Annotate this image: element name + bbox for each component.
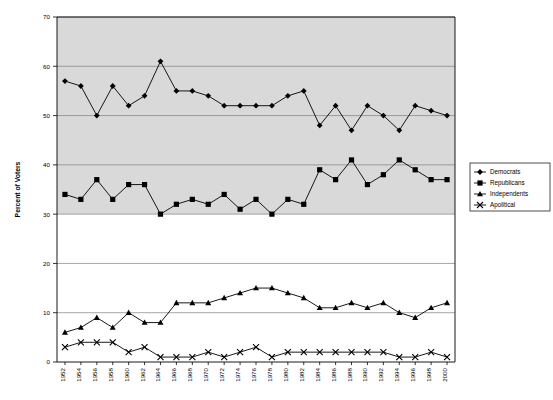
x-axis-tick-label: 1986 [330,367,337,381]
marker-square [174,202,179,207]
marker-square [349,157,354,162]
marker-square [477,180,482,185]
x-axis-tick-label: 1956 [91,367,98,381]
y-axis-tick-label: 10 [43,309,50,316]
x-axis-tick-label: 1984 [314,367,321,381]
marker-square [413,167,418,172]
y-axis-tick-label: 70 [43,13,50,20]
marker-square [317,167,322,172]
legend-label: Republicans [490,179,525,187]
marker-square [429,177,434,182]
marker-square [62,192,67,197]
marker-square [110,197,115,202]
chart-root: 010203040506070Percent of Voters19521954… [0,0,553,400]
marker-square [206,202,211,207]
x-axis-tick-label: 1988 [346,367,353,381]
marker-square [397,157,402,162]
x-axis-tick-label: 1998 [425,367,432,381]
x-axis-tick-label: 1980 [282,367,289,381]
legend-label: Independents [490,190,528,198]
marker-square [94,177,99,182]
marker-square [365,182,370,187]
line-chart: 010203040506070Percent of Voters19521954… [0,0,553,400]
y-axis-tick-label: 30 [43,211,50,218]
x-axis-tick-label: 1964 [154,367,161,381]
x-axis-tick-label: 1972 [218,367,225,381]
x-axis-tick-label: 1960 [123,367,130,381]
marker-square [301,202,306,207]
x-axis-tick-label: 2000 [441,367,448,381]
x-axis-tick-label: 1966 [170,367,177,381]
y-axis-tick-label: 20 [43,260,50,267]
y-axis-tick-label: 50 [43,112,50,119]
x-axis-tick-label: 1994 [393,367,400,381]
x-axis-tick-label: 1974 [234,367,241,381]
marker-square [285,197,290,202]
y-axis-tick-label: 60 [43,63,50,70]
y-axis-tick-label: 40 [43,161,50,168]
legend-label: Apolitical [490,201,515,209]
y-axis-title: Percent of Voters [14,161,21,217]
x-axis-tick-label: 1982 [298,367,305,381]
y-axis-tick-label: 0 [47,358,51,365]
marker-square [269,212,274,217]
marker-square [381,172,386,177]
x-axis-tick-label: 1952 [59,367,66,381]
x-axis-tick-label: 1968 [186,367,193,381]
marker-square [237,207,242,212]
x-axis-tick-label: 1970 [202,367,209,381]
x-axis-tick-label: 1954 [75,367,82,381]
marker-square [253,197,258,202]
x-axis-tick-label: 1992 [377,367,384,381]
x-axis-tick-label: 1990 [361,367,368,381]
marker-square [333,177,338,182]
marker-square [444,177,449,182]
x-axis-tick-label: 1996 [409,367,416,381]
x-axis-tick-label: 1962 [139,367,146,381]
marker-square [142,182,147,187]
marker-square [158,212,163,217]
x-axis-tick-label: 1978 [266,367,273,381]
marker-square [126,182,131,187]
marker-square [190,197,195,202]
x-axis-tick-label: 1958 [107,367,114,381]
x-axis-tick-label: 1976 [250,367,257,381]
marker-square [222,192,227,197]
legend-label: Democrats [490,168,520,175]
marker-square [78,197,83,202]
